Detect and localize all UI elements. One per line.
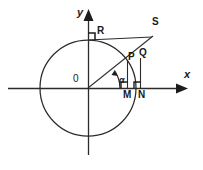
diagram-canvas: y x 0 α R S P Q M N [0, 0, 203, 170]
point-p-label: P [128, 52, 135, 62]
origin-label: 0 [73, 74, 79, 84]
y-axis-arrowhead [84, 9, 94, 21]
right-angle-marker-n [134, 82, 141, 88]
x-axis-arrowhead [176, 84, 188, 94]
y-axis-label: y [77, 7, 83, 18]
point-q-label: Q [139, 48, 147, 58]
point-n-label: N [138, 90, 145, 100]
angle-alpha-label: α [119, 76, 125, 85]
point-m-label: M [123, 90, 131, 100]
x-axis-label: x [184, 69, 190, 80]
tangent-line-rs [88, 37, 152, 40]
x-axis [8, 84, 188, 94]
point-r-label: R [97, 26, 104, 36]
point-s-label: S [152, 17, 159, 27]
y-axis [84, 9, 94, 155]
